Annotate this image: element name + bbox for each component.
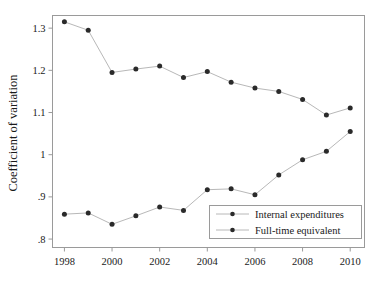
y-tick-label-1: 1.2 (32, 65, 45, 76)
data-point (324, 113, 329, 118)
chart-background (0, 0, 379, 285)
data-point (157, 205, 162, 210)
y-axis-title: Coefficient of variation (6, 74, 20, 192)
data-point (110, 70, 115, 75)
data-point (62, 19, 67, 24)
legend-label-internal-expenditures: Internal expenditures (255, 209, 344, 220)
data-point (205, 69, 210, 74)
data-point (181, 208, 186, 213)
x-tick-label-5: 2008 (292, 256, 313, 267)
y-tick-label-2: 1.1 (32, 107, 45, 118)
data-point (86, 28, 91, 33)
chart-legend: Internal expenditures Full-time equivale… (210, 206, 362, 239)
line-chart-canvas: Coefficient of variation 1.31.21.11.9.8 … (0, 0, 379, 285)
legend-marker-1 (230, 228, 235, 233)
data-point (110, 222, 115, 227)
x-tick-label-6: 2010 (340, 256, 361, 267)
x-tick-label-0: 1998 (54, 256, 75, 267)
y-tick-label-3: 1 (40, 149, 45, 160)
y-tick-label-4: .9 (38, 191, 46, 202)
y-tick-label-5: .8 (38, 234, 46, 245)
data-point (229, 80, 234, 85)
legend-label-full-time-equivalent: Full-time equivalent (255, 225, 341, 236)
legend-marker-0 (230, 212, 235, 217)
data-point (252, 192, 257, 197)
y-tick-label-0: 1.3 (32, 23, 45, 34)
data-point (133, 67, 138, 72)
data-point (324, 149, 329, 154)
data-point (300, 157, 305, 162)
data-point (276, 172, 281, 177)
x-tick-label-1: 2000 (102, 256, 123, 267)
x-tick-label-4: 2006 (244, 256, 265, 267)
data-point (348, 105, 353, 110)
data-point (157, 64, 162, 69)
data-point (229, 186, 234, 191)
data-point (181, 75, 186, 80)
data-point (205, 187, 210, 192)
data-point (300, 97, 305, 102)
data-point (133, 213, 138, 218)
data-point (86, 210, 91, 215)
data-point (62, 212, 67, 217)
x-tick-label-3: 2004 (197, 256, 219, 267)
chart-figure: Coefficient of variation 1.31.21.11.9.8 … (0, 0, 379, 285)
x-tick-label-2: 2002 (149, 256, 170, 267)
data-point (276, 89, 281, 94)
data-point (252, 86, 257, 91)
data-point (348, 129, 353, 134)
